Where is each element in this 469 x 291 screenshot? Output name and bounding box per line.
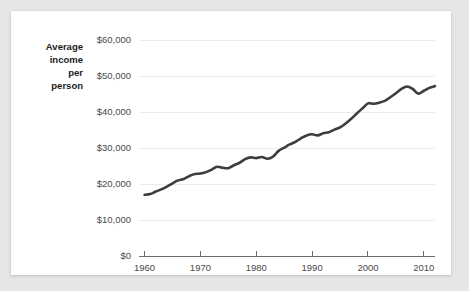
gridlines [139, 40, 435, 220]
y-axis-title-line: income [50, 54, 83, 65]
y-tick-label: $50,000 [97, 70, 131, 81]
chart-plot-area: $0$10,000$20,000$30,000$40,000$50,000$60… [11, 11, 451, 275]
y-tick-label: $60,000 [97, 34, 131, 45]
y-tick-label: $20,000 [97, 178, 131, 189]
x-axis [139, 251, 435, 256]
x-tick-label: 2010 [413, 262, 434, 273]
y-axis-title: Averageincomeperperson [46, 41, 83, 91]
x-axis-tick-labels: 196019701980199020002010 [134, 262, 434, 273]
y-axis-tick-labels: $0$10,000$20,000$30,000$40,000$50,000$60… [97, 34, 131, 261]
y-tick-label: $10,000 [97, 214, 131, 225]
y-tick-label: $0 [120, 250, 131, 261]
y-axis-title-line: person [51, 80, 83, 91]
income-line-chart: $0$10,000$20,000$30,000$40,000$50,000$60… [11, 11, 451, 275]
y-axis-title-line: Average [46, 41, 83, 52]
x-tick-label: 1990 [302, 262, 323, 273]
y-axis-title-line: per [68, 67, 83, 78]
y-tick-label: $40,000 [97, 106, 131, 117]
x-tick-label: 1980 [246, 262, 267, 273]
y-tick-label: $30,000 [97, 142, 131, 153]
x-tick-label: 2000 [357, 262, 378, 273]
income-series-line [145, 86, 435, 195]
chart-card: $0$10,000$20,000$30,000$40,000$50,000$60… [11, 11, 451, 275]
x-tick-label: 1960 [134, 262, 155, 273]
x-tick-label: 1970 [190, 262, 211, 273]
